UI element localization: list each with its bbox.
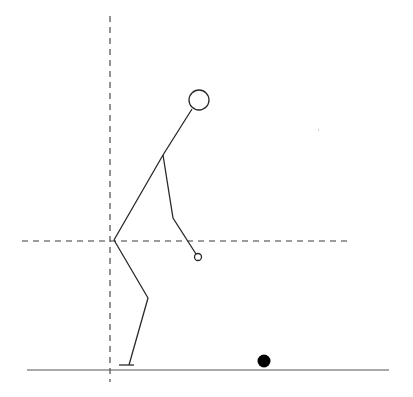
speck-mark bbox=[318, 129, 319, 131]
stick-figure bbox=[114, 90, 209, 365]
leg-line bbox=[114, 240, 148, 365]
ball bbox=[258, 355, 271, 368]
arm-line bbox=[163, 155, 196, 254]
hand-circle bbox=[195, 254, 202, 261]
torso-line bbox=[114, 109, 192, 240]
diagram-canvas bbox=[0, 0, 413, 397]
head-circle bbox=[189, 90, 209, 110]
